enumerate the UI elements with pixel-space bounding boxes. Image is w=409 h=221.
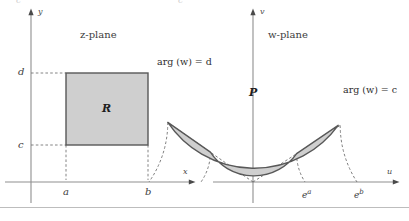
- figure-vector-graphics: [0, 0, 409, 221]
- z-plane-tick-d: d: [18, 67, 24, 77]
- w-plane-title: w-plane: [268, 30, 308, 40]
- z-plane-tick-a: a: [63, 187, 69, 197]
- region-R-label: R: [102, 103, 111, 114]
- arg-w-equals-c-label: arg (w) = c: [343, 85, 397, 95]
- z-plane-title: z-plane: [80, 30, 117, 40]
- inner-radius-label: ea: [302, 189, 312, 200]
- w-plane-u-axis-label: u: [387, 168, 392, 176]
- z-plane-tick-b: b: [145, 187, 151, 197]
- arg-w-equals-d-label: arg (w) = d: [157, 57, 212, 67]
- outer-radius-label: eb: [354, 189, 364, 200]
- figure-container: c c z-plane y x R d c a b w-plane v u P …: [0, 0, 409, 221]
- w-plane-u-axis: [213, 179, 400, 184]
- inner-radius-exponent: a: [307, 188, 311, 196]
- ghost-glyph-left: c: [16, 0, 21, 5]
- z-plane-x-axis: [5, 179, 196, 184]
- ghost-glyph-right: c: [178, 0, 183, 5]
- outer-radius-exponent: b: [359, 188, 363, 196]
- w-plane-v-axis-label: v: [260, 8, 265, 16]
- region-P-label: P: [249, 87, 257, 98]
- z-plane-tick-c: c: [18, 140, 24, 150]
- dashed-arc-outer-lower: [340, 125, 357, 182]
- z-plane-y-axis-label: y: [38, 8, 43, 16]
- z-plane-x-axis-label: x: [183, 168, 188, 176]
- z-plane-y-axis: [28, 9, 33, 204]
- dashed-arc-outer-left: [149, 122, 168, 182]
